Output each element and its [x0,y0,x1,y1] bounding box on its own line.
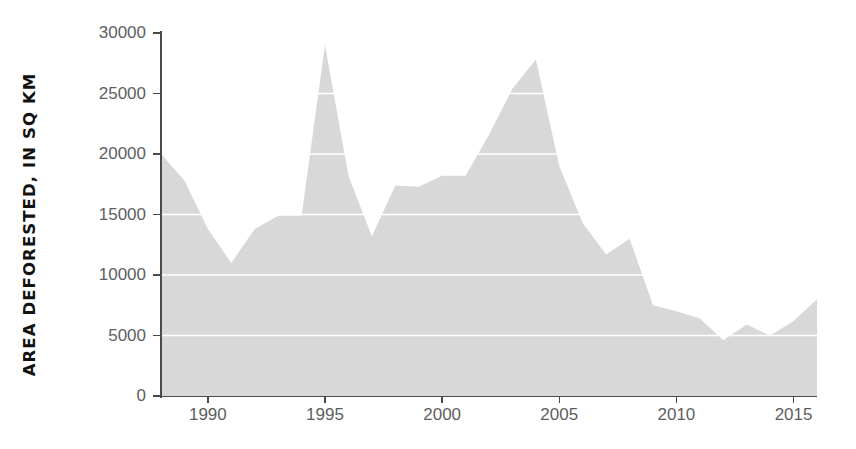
x-axis-tick-label: 2000 [407,406,477,423]
x-axis-tick-label: 1995 [290,406,360,423]
x-axis-tick-mark [324,396,325,403]
y-axis-tick-label: 15000 [78,206,146,223]
area-series-svg [161,33,817,396]
y-axis-tick-label: 0 [78,387,146,404]
x-axis-tick-mark [441,396,442,403]
y-axis-tick-label: 10000 [78,266,146,283]
y-axis-tick-label: 5000 [78,327,146,344]
x-axis-tick-label: 2015 [759,406,829,423]
y-axis-title-container: AREA DEFORESTED, IN SQ KM [0,0,60,449]
y-axis-tick-label: 30000 [78,24,146,41]
y-axis-tick-label: 25000 [78,85,146,102]
x-axis-tick-mark [559,396,560,403]
y-axis-title: AREA DEFORESTED, IN SQ KM [21,73,40,377]
x-axis-tick-label: 2010 [641,406,711,423]
x-axis-tick-mark [207,396,208,403]
y-axis-line [160,31,162,398]
deforestation-area-chart: AREA DEFORESTED, IN SQ KM 05000100001500… [0,0,856,449]
x-axis-tick-label: 1990 [173,406,243,423]
area-fill-path [161,45,817,396]
y-axis-tick-label: 20000 [78,145,146,162]
x-axis-tick-label: 2005 [524,406,594,423]
x-axis-tick-mark [676,396,677,403]
plot-area [161,33,817,396]
x-axis-line [160,396,817,398]
x-axis-tick-mark [793,396,794,403]
